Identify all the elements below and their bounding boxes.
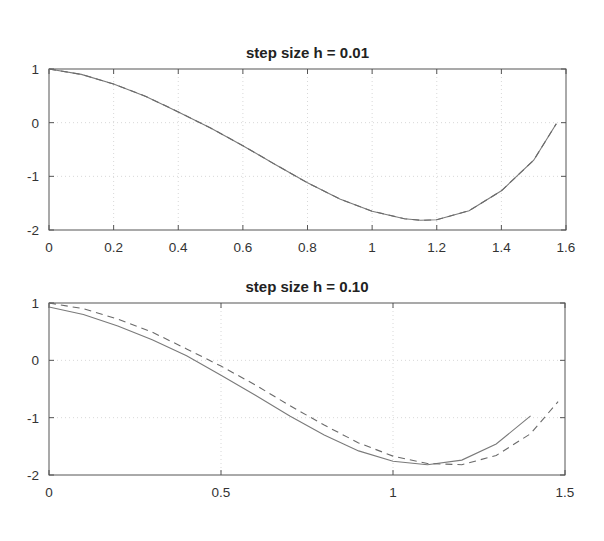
x-tick-label: 1.4	[492, 240, 511, 255]
y-tick-label: 0	[31, 116, 39, 131]
chart-title: step size h = 0.10	[246, 278, 369, 295]
series-exact	[49, 69, 556, 220]
series-numerical	[49, 307, 531, 465]
y-tick-label: -1	[27, 411, 39, 426]
subplot-bottom: step size h = 0.1000.511.510-1-2	[27, 278, 574, 500]
subplot-top: step size h = 0.0100.20.40.60.811.21.41.…	[27, 44, 575, 255]
x-tick-label: 1.2	[427, 240, 446, 255]
chart-title: step size h = 0.01	[246, 44, 369, 61]
y-tick-label: 1	[31, 62, 39, 77]
figure: step size h = 0.0100.20.40.60.811.21.41.…	[0, 0, 604, 541]
x-tick-label: 0.8	[298, 240, 317, 255]
series-exact	[49, 303, 558, 465]
y-tick-label: -1	[27, 169, 39, 184]
x-tick-label: 1	[389, 485, 397, 500]
y-tick-label: -2	[27, 223, 39, 238]
x-tick-label: 0.6	[233, 240, 252, 255]
x-tick-label: 1	[368, 240, 376, 255]
x-tick-label: 0	[45, 240, 53, 255]
x-tick-label: 0.2	[104, 240, 123, 255]
series-numerical	[49, 69, 556, 220]
x-tick-label: 0	[45, 485, 53, 500]
y-tick-label: 0	[31, 353, 39, 368]
x-tick-label: 0.4	[169, 240, 188, 255]
x-tick-label: 1.6	[557, 240, 576, 255]
x-tick-label: 1.5	[556, 485, 575, 500]
y-tick-label: -2	[27, 468, 39, 483]
x-tick-label: 0.5	[212, 485, 231, 500]
y-tick-label: 1	[31, 296, 39, 311]
